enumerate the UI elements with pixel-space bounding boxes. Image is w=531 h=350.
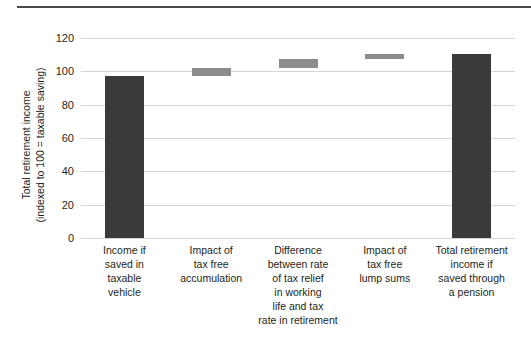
x-axis-label-1-line-3: taxable <box>78 272 170 286</box>
gridline-0 <box>81 238 515 239</box>
x-axis-category-labels: Income ifsaved intaxablevehicleImpact of… <box>81 244 515 344</box>
gridline-100 <box>81 71 515 72</box>
gridline-60 <box>81 138 515 139</box>
waterfall-chart-figure: Total retirement income (indexed to 100 … <box>0 0 531 350</box>
bar-4[interactable] <box>365 54 404 59</box>
x-axis-label-3-line-3: of tax relief <box>242 272 354 286</box>
x-axis-label-5-line-1: Total retirement <box>418 244 526 258</box>
bar-3[interactable] <box>279 59 318 68</box>
x-axis-label-3-line-6: rate in retirement <box>242 314 354 328</box>
y-tick-label-40: 40 <box>62 165 74 177</box>
x-axis-label-1-line-2: saved in <box>78 258 170 272</box>
y-tick-label-60: 60 <box>62 132 74 144</box>
y-axis-title-line-2: (indexed to 100 = taxable saving) <box>34 68 48 223</box>
x-axis-label-3-line-5: life and tax <box>242 300 354 314</box>
plot-area: 020406080100120 <box>81 38 515 238</box>
bar-5[interactable] <box>452 54 491 238</box>
gridline-80 <box>81 105 515 106</box>
x-axis-label-5-line-2: income if <box>418 258 526 272</box>
x-axis-label-3: Differencebetween rateof tax reliefin wo… <box>242 244 354 328</box>
bar-2[interactable] <box>192 68 231 76</box>
y-tick-label-120: 120 <box>56 32 74 44</box>
y-axis-title-line-1: Total retirement income <box>20 90 34 199</box>
x-axis-label-1-line-4: vehicle <box>78 286 170 300</box>
y-tick-label-80: 80 <box>62 99 74 111</box>
x-axis-label-5-line-4: a pension <box>418 286 526 300</box>
x-axis-label-3-line-4: in working <box>242 286 354 300</box>
gridline-40 <box>81 171 515 172</box>
gridline-120 <box>81 38 515 39</box>
x-axis-label-5: Total retirementincome ifsaved througha … <box>418 244 526 300</box>
x-axis-label-3-line-1: Difference <box>242 244 354 258</box>
gridline-20 <box>81 205 515 206</box>
y-tick-label-100: 100 <box>56 65 74 77</box>
x-axis-label-1-line-1: Income if <box>78 244 170 258</box>
x-axis-label-5-line-3: saved through <box>418 272 526 286</box>
x-axis-label-3-line-2: between rate <box>242 258 354 272</box>
x-axis-label-1: Income ifsaved intaxablevehicle <box>78 244 170 300</box>
top-divider-rule <box>17 6 531 8</box>
bar-1[interactable] <box>105 76 144 238</box>
y-tick-label-20: 20 <box>62 199 74 211</box>
y-axis-title: Total retirement income (indexed to 100 … <box>17 40 51 250</box>
y-tick-label-0: 0 <box>68 232 74 244</box>
